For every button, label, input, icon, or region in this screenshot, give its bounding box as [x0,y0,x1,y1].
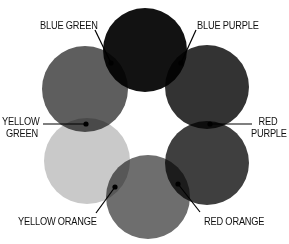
label-yellow-green-line1: YELLOW [2,115,39,127]
callout-dot-blue-green [108,60,113,65]
label-yellow-orange: YELLOW ORANGE [18,215,97,227]
label-red-purple-line1: RED [259,115,278,127]
callout-dot-blue-purple [178,60,183,65]
color-wheel [0,0,289,244]
callout-dot-red-orange [175,181,180,186]
label-blue-purple: BLUE PURPLE [197,19,259,31]
callout-dot-yellow-orange [112,184,117,189]
callout-dot-red-purple [207,121,212,126]
label-red-orange: RED ORANGE [204,215,264,227]
label-blue-green: BLUE GREEN [40,19,98,31]
circle-purple [165,45,249,129]
label-yellow-green-line2: GREEN [6,127,38,139]
circle-green [42,46,128,132]
callout-dot-yellow-green [83,121,88,126]
label-red-purple-line2: PURPLE [251,127,287,139]
